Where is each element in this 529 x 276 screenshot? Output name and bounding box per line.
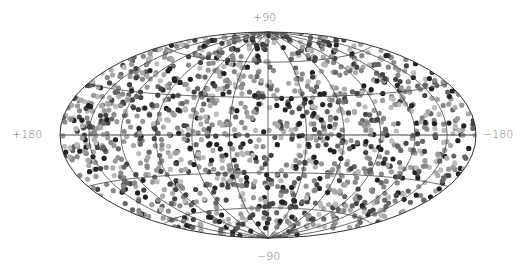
data-point (159, 169, 164, 174)
data-point (392, 102, 397, 107)
data-point (238, 101, 243, 106)
data-point (104, 165, 109, 170)
data-point (365, 120, 370, 125)
data-point (437, 112, 442, 117)
data-point (263, 199, 268, 204)
data-point (80, 123, 85, 128)
data-point (101, 144, 106, 149)
data-point (317, 212, 322, 217)
data-point (221, 177, 226, 182)
data-point (226, 217, 231, 222)
data-point (166, 209, 171, 214)
data-point (202, 75, 207, 80)
data-point (138, 95, 143, 100)
data-point (375, 199, 380, 204)
data-point (218, 146, 223, 151)
data-point (452, 105, 457, 110)
data-point (255, 54, 260, 59)
data-point (263, 225, 268, 230)
data-point (136, 208, 141, 213)
data-point (383, 53, 388, 58)
data-point (255, 206, 260, 211)
data-point (217, 120, 222, 125)
data-point (85, 177, 90, 182)
data-point (253, 128, 258, 133)
data-point (398, 165, 403, 170)
data-point (150, 180, 155, 185)
data-point (213, 201, 218, 206)
data-point (268, 86, 273, 91)
data-point (326, 202, 331, 207)
data-point (422, 158, 427, 163)
data-point (261, 215, 266, 220)
data-point (259, 166, 264, 171)
data-point (224, 121, 229, 126)
data-point (399, 85, 404, 90)
data-point (248, 139, 253, 144)
data-point (198, 115, 203, 120)
data-point (314, 84, 319, 89)
data-point (229, 47, 234, 52)
data-point (379, 171, 384, 176)
data-point (170, 191, 175, 196)
data-point (116, 146, 121, 151)
data-point (394, 128, 399, 133)
data-point (86, 163, 91, 168)
data-point (408, 200, 413, 205)
data-point (113, 90, 118, 95)
data-point (312, 127, 317, 132)
data-point (135, 113, 140, 118)
data-point (208, 103, 213, 108)
data-point (126, 119, 131, 124)
data-point (133, 75, 138, 80)
data-point (333, 70, 338, 75)
data-point (423, 163, 428, 168)
data-point (85, 115, 90, 120)
data-point (395, 143, 400, 148)
data-point (238, 178, 243, 183)
data-point (341, 37, 346, 42)
data-point (111, 112, 116, 117)
data-point (415, 175, 420, 180)
data-point (247, 46, 252, 51)
data-point (321, 138, 326, 143)
data-point (369, 87, 374, 92)
data-point (219, 153, 224, 158)
data-point (244, 183, 249, 188)
data-point (290, 52, 295, 57)
data-point (332, 161, 337, 166)
data-point (67, 154, 72, 159)
data-point (98, 113, 103, 118)
data-point (212, 83, 217, 88)
data-point (206, 68, 211, 73)
data-point (184, 82, 189, 87)
data-point (250, 115, 255, 120)
data-point (265, 39, 270, 44)
data-point (356, 102, 361, 107)
data-point (195, 86, 200, 91)
data-point (93, 140, 98, 145)
data-point (457, 128, 462, 133)
data-point (272, 135, 277, 140)
data-point (221, 71, 226, 76)
data-point (214, 142, 219, 147)
data-point (198, 191, 203, 196)
data-point (330, 98, 335, 103)
data-point (234, 108, 239, 113)
data-point (299, 77, 304, 82)
data-point (188, 77, 193, 82)
data-point (385, 150, 390, 155)
data-point (158, 78, 163, 83)
data-point (129, 62, 134, 67)
data-point (160, 194, 165, 199)
data-point (422, 93, 427, 98)
data-point (138, 137, 143, 142)
data-point (283, 107, 288, 112)
data-point (213, 134, 218, 139)
data-point (381, 161, 386, 166)
data-point (441, 103, 446, 108)
data-point (236, 62, 241, 67)
data-point (300, 45, 305, 50)
data-point (274, 103, 279, 108)
data-point (230, 56, 235, 61)
